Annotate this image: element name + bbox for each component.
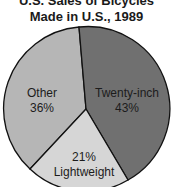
label-lightweight-pct: 21%: [72, 150, 96, 164]
label-lightweight-name: Lightweight: [54, 165, 115, 179]
label-other-name: Other: [27, 86, 57, 100]
label-twenty-inch-name: Twenty-inch: [95, 86, 159, 100]
label-other-pct: 36%: [30, 101, 54, 115]
pie-chart: Other 36% Twenty-inch 43% 21% Lightweigh…: [0, 0, 173, 187]
label-twenty-inch-pct: 43%: [115, 101, 139, 115]
